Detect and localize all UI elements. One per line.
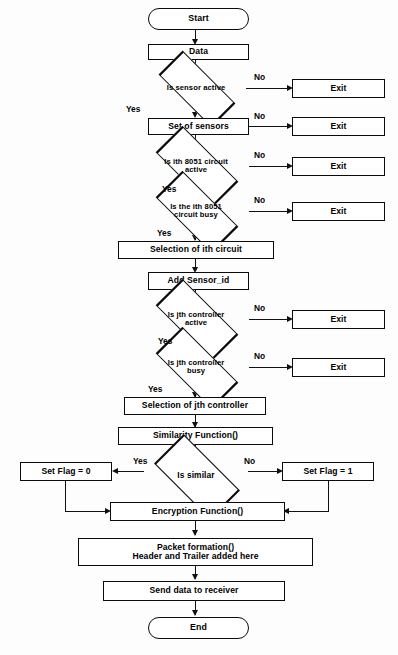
- node-exit-1-label: Exit: [330, 84, 346, 93]
- arrowhead-packet-to-send: [192, 574, 198, 580]
- node-set-flag-0-label: Set Flag = 0: [41, 467, 90, 476]
- edge-label-no-4: No: [254, 195, 265, 205]
- node-set-flag-1: Set Flag = 1: [282, 462, 374, 481]
- node-is-ith-8051-active: Is ith 8051 circuit active: [143, 148, 249, 184]
- flowchart-canvas: Start Data Is sensor active No Exit Yes …: [0, 0, 398, 655]
- edge-label-yes-4: Yes: [157, 228, 171, 238]
- node-end: End: [148, 617, 249, 639]
- edge-label-no-similar: No: [244, 456, 255, 466]
- arrowhead-is-similar-yes: [112, 468, 118, 474]
- connector-flag0-down: [65, 481, 66, 512]
- edge-label-no-3: No: [254, 150, 265, 160]
- connector-sensor-active-no: [246, 88, 290, 89]
- connector-flag0-right: [65, 511, 108, 512]
- node-selection-ith-circuit-label: Selection of ith circuit: [150, 245, 242, 254]
- node-start: Start: [148, 8, 249, 30]
- node-selection-jth-controller: Selection of jth controller: [124, 397, 266, 415]
- node-encryption-function-label: Encryption Function(): [152, 507, 243, 516]
- node-is-sensor-active: Is sensor active: [146, 72, 246, 104]
- node-set-flag-1-label: Set Flag = 1: [303, 467, 352, 476]
- connector-ith8051-busy-no: [249, 211, 290, 212]
- connector-flag1-down: [328, 481, 329, 512]
- edge-label-yes-5: Yes: [158, 336, 172, 346]
- arrowhead-send-to-end: [192, 610, 198, 616]
- connector-flag1-left: [288, 511, 329, 512]
- node-is-similar: Is similar: [143, 456, 249, 496]
- node-set-flag-0: Set Flag = 0: [20, 462, 112, 481]
- edge-label-yes-3: Yes: [162, 184, 176, 194]
- node-is-ith-8051-active-label: Is ith 8051 circuit active: [164, 158, 228, 174]
- node-exit-6: Exit: [292, 358, 385, 377]
- edge-label-no-2: No: [254, 111, 265, 121]
- node-start-label: Start: [188, 14, 209, 23]
- node-exit-2: Exit: [292, 117, 385, 136]
- node-exit-3: Exit: [292, 157, 385, 176]
- edge-label-no-5: No: [254, 303, 265, 313]
- node-is-jth-controller-active-label: Is jth controller active: [168, 311, 225, 327]
- node-is-similar-label: Is similar: [177, 471, 214, 480]
- node-send-data-label: Send data to receiver: [149, 586, 238, 595]
- node-is-ith-8051-busy: Is the ith 8051 circuit busy: [143, 193, 249, 229]
- arrowhead-encryption-to-packet: [192, 530, 198, 536]
- connector-is-similar-yes: [117, 471, 144, 472]
- node-exit-4-label: Exit: [330, 207, 346, 216]
- node-is-jth-controller-busy: Is jth controller busy: [143, 349, 249, 385]
- edge-label-yes-similar: Yes: [133, 456, 147, 466]
- node-exit-2-label: Exit: [330, 122, 346, 131]
- node-similarity-function: Similarity Function(): [118, 427, 273, 445]
- node-exit-6-label: Exit: [330, 363, 346, 372]
- node-exit-1: Exit: [292, 79, 385, 98]
- node-selection-ith-circuit: Selection of ith circuit: [118, 241, 274, 259]
- connector-set-of-sensors-no: [249, 126, 290, 127]
- connector-jth-busy-no: [249, 367, 290, 368]
- node-selection-jth-controller-label: Selection of jth controller: [142, 401, 248, 410]
- node-data: Data: [148, 44, 249, 60]
- node-is-jth-controller-active: Is jth controller active: [143, 301, 249, 337]
- edge-label-yes-6: Yes: [148, 384, 162, 394]
- node-packet-formation-line2: Header and Trailer added here: [132, 552, 258, 561]
- node-add-sensor-id: Add Sensor_id: [148, 272, 249, 290]
- node-is-jth-controller-busy-label: Is jth controller busy: [168, 359, 225, 375]
- connector-jth-active-no: [249, 319, 290, 320]
- node-packet-formation: Packet formation() Header and Trailer ad…: [78, 538, 313, 566]
- edge-label-no-6: No: [254, 351, 265, 361]
- node-set-of-sensors: Set of sensors: [148, 118, 249, 135]
- node-exit-5: Exit: [292, 310, 385, 329]
- edge-label-no-1: No: [254, 72, 265, 82]
- node-is-ith-8051-busy-label: Is the ith 8051 circuit busy: [170, 203, 222, 219]
- node-data-label: Data: [189, 47, 208, 56]
- connector-is-similar-no: [248, 471, 280, 472]
- node-is-sensor-active-label: Is sensor active: [167, 84, 226, 92]
- node-encryption-function: Encryption Function(): [110, 502, 285, 521]
- node-exit-5-label: Exit: [330, 315, 346, 324]
- node-send-data: Send data to receiver: [103, 581, 285, 601]
- connector-ith8051-active-no: [249, 166, 290, 167]
- node-exit-4: Exit: [292, 202, 385, 221]
- edge-label-yes-1: Yes: [126, 104, 140, 114]
- node-exit-3-label: Exit: [330, 162, 346, 171]
- node-similarity-function-label: Similarity Function(): [153, 431, 238, 440]
- node-end-label: End: [190, 623, 207, 632]
